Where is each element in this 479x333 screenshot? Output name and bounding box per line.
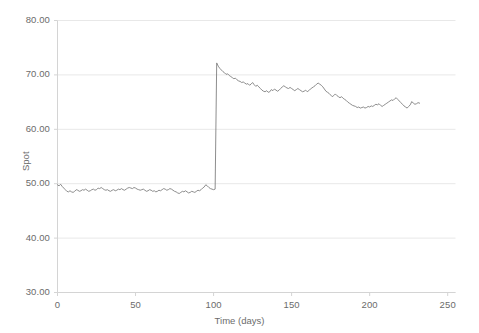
x-axis-title: Time (days) xyxy=(0,315,479,326)
chart-container: 30.0040.0050.0060.0070.0080.00 050100150… xyxy=(0,0,479,333)
y-tick-label: 60.00 xyxy=(8,123,50,134)
x-tick-label: 50 xyxy=(111,299,161,310)
y-tick-label: 80.00 xyxy=(8,14,50,25)
x-tick-label: 0 xyxy=(33,299,83,310)
y-tick-label: 40.00 xyxy=(8,232,50,243)
axis-ticks xyxy=(54,21,448,297)
line-chart-plot xyxy=(0,0,479,333)
x-tick-label: 200 xyxy=(345,299,395,310)
gridlines xyxy=(58,21,456,293)
series-line-spot xyxy=(58,63,420,194)
y-tick-label: 50.00 xyxy=(8,177,50,188)
x-tick-label: 100 xyxy=(189,299,239,310)
axis-lines xyxy=(58,21,456,293)
y-tick-label: 30.00 xyxy=(8,286,50,297)
y-axis-title: Spot xyxy=(20,151,31,171)
x-tick-label: 250 xyxy=(423,299,473,310)
y-tick-label: 70.00 xyxy=(8,68,50,79)
x-tick-label: 150 xyxy=(267,299,317,310)
